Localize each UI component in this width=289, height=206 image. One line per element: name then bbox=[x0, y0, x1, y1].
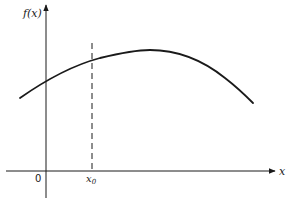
origin-label: 0 bbox=[35, 173, 41, 184]
function-diagram: f(x) x 0 x0 bbox=[0, 0, 289, 206]
x0-label-subscript: 0 bbox=[92, 178, 97, 186]
y-axis-label: f(x) bbox=[22, 7, 42, 20]
function-curve bbox=[20, 50, 253, 103]
x-axis-label: x bbox=[279, 165, 286, 178]
x0-label: x0 bbox=[86, 173, 97, 186]
